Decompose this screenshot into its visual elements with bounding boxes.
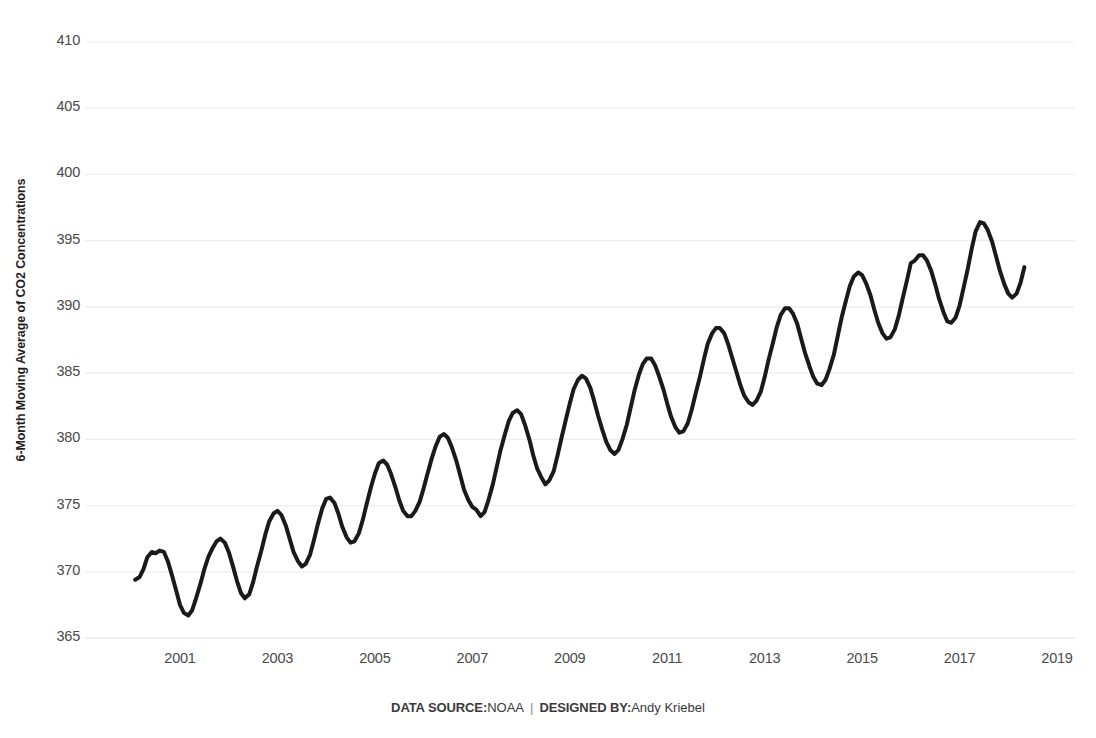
x-tick-label: 2007 xyxy=(442,650,502,666)
caption-separator: | xyxy=(524,700,539,715)
y-tick-label: 380 xyxy=(36,429,80,445)
gridlines-group xyxy=(85,42,1075,638)
y-tick-label: 395 xyxy=(36,231,80,247)
x-tick-label: 2011 xyxy=(637,650,697,666)
series-group xyxy=(135,222,1024,615)
chart-plot-area xyxy=(0,0,1096,738)
x-tick-label: 2003 xyxy=(247,650,307,666)
y-tick-label: 400 xyxy=(36,164,80,180)
designer-value: Andy Kriebel xyxy=(631,700,705,715)
data-source-label: DATA SOURCE: xyxy=(391,700,487,715)
x-tick-label: 2013 xyxy=(735,650,795,666)
y-tick-label: 410 xyxy=(36,32,80,48)
x-tick-label: 2001 xyxy=(150,650,210,666)
data-source-value: NOAA xyxy=(487,700,524,715)
series-line-co2 xyxy=(135,222,1024,615)
co2-line-chart: 6-Month Moving Average of CO2 Concentrat… xyxy=(0,0,1096,738)
x-tick-label: 2005 xyxy=(345,650,405,666)
y-tick-label: 375 xyxy=(36,496,80,512)
x-tick-label: 2017 xyxy=(930,650,990,666)
x-tick-label: 2015 xyxy=(832,650,892,666)
x-tick-label: 2019 xyxy=(1027,650,1087,666)
y-tick-label: 405 xyxy=(36,98,80,114)
y-tick-label: 370 xyxy=(36,562,80,578)
y-tick-label: 365 xyxy=(36,628,80,644)
designer-label: DESIGNED BY: xyxy=(539,700,631,715)
x-tick-label: 2009 xyxy=(540,650,600,666)
y-tick-label: 385 xyxy=(36,363,80,379)
y-tick-label: 390 xyxy=(36,297,80,313)
chart-footer-caption: DATA SOURCE:NOAA|DESIGNED BY:Andy Kriebe… xyxy=(0,700,1096,715)
